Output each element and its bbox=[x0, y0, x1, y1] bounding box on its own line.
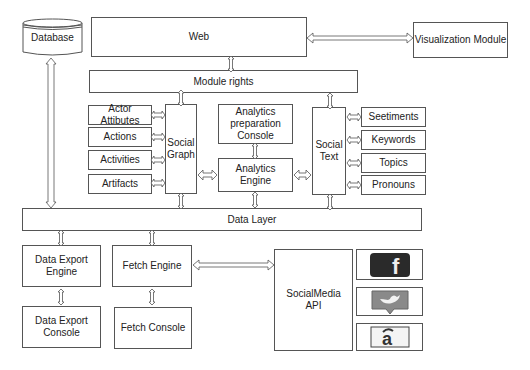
connector-arrows bbox=[0, 0, 530, 370]
